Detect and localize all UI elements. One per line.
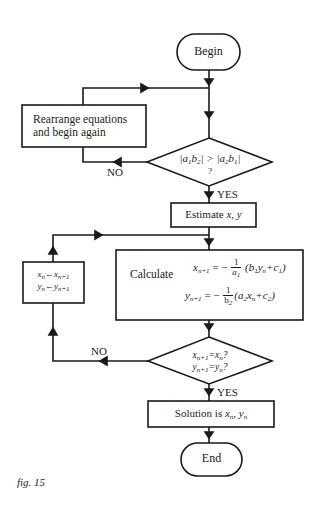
rearrange-line2: and begin again <box>33 126 127 139</box>
convergence-no-label: NO <box>91 345 107 358</box>
dominance-question: ? <box>160 166 260 176</box>
dominance-no-label: NO <box>107 166 123 179</box>
estimate-prefix: Estimate <box>185 208 226 220</box>
begin-label: Begin <box>177 45 240 59</box>
calculate-eq2: yn+1 = − 1b2(a2xn+c2) <box>185 286 275 307</box>
solution-vars: xn, yn <box>225 407 247 419</box>
update-label: xn←xn+1 yn←yn+1 <box>23 269 84 293</box>
convergence-label: xn+1=xn? yn+1=yn? <box>170 350 250 374</box>
calculate-eq1: xn+1 = − 1a1 (b1yn+c1) <box>193 258 286 279</box>
dominance-yes-label: YES <box>217 188 238 201</box>
end-label: End <box>181 452 242 466</box>
flowchart <box>0 0 319 512</box>
solution-prefix: Solution is <box>175 407 225 419</box>
estimate-vars: x, y <box>226 208 241 220</box>
rearrange-line1: Rearrange equations <box>33 113 127 126</box>
convergence-yes-label: YES <box>217 386 238 399</box>
calculate-label: Calculate <box>130 268 173 281</box>
estimate-label: Estimate x, y <box>171 208 256 221</box>
solution-label: Solution is xn, yn <box>148 407 274 421</box>
update-x: xn←xn+1 <box>23 269 84 281</box>
convergence-y: yn+1=yn? <box>170 362 250 374</box>
rearrange-label: Rearrange equations and begin again <box>33 113 127 139</box>
figure-caption: fig. 15 <box>17 476 45 489</box>
convergence-x: xn+1=xn? <box>170 350 250 362</box>
update-y: yn←yn+1 <box>23 281 84 293</box>
dominance-label: |a1b2| > |a2b1| ? <box>160 152 260 176</box>
dominance-condition: |a1b2| > |a2b1| <box>160 152 260 166</box>
